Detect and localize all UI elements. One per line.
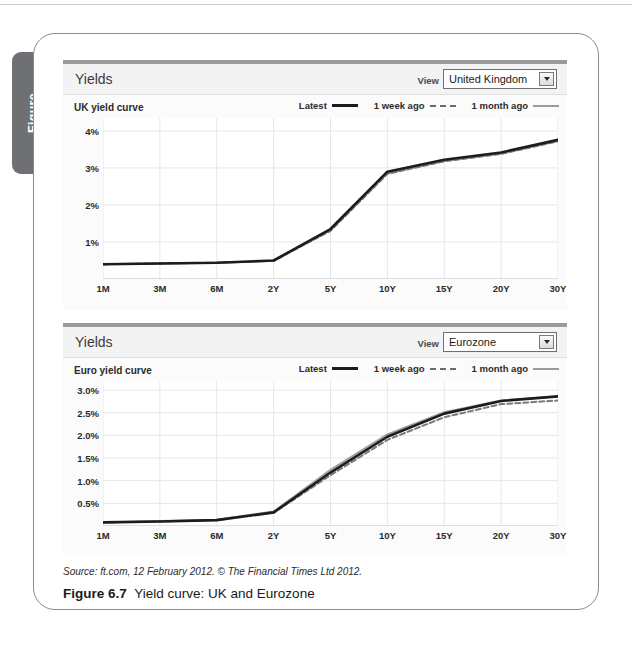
x-axis-tick-label: 3M: [153, 283, 166, 294]
x-axis-tick-label: 10Y: [379, 530, 396, 541]
x-axis-tick-label: 6M: [210, 283, 223, 294]
source-note: Source: ft.com, 12 February 2012. © The …: [63, 566, 362, 577]
x-axis-tick-label: 20Y: [493, 530, 510, 541]
x-axis-tick-label: 10Y: [379, 283, 396, 294]
y-axis-tick-label: 1.0%: [77, 475, 99, 486]
region-select-eurozone-value: Eurozone: [449, 336, 496, 348]
chart-plot-eurozone: [103, 381, 558, 526]
y-axis-tick-label: 1.5%: [77, 453, 99, 464]
x-axis-tick-label: 15Y: [436, 283, 453, 294]
x-axis-tick-label: 3M: [153, 530, 166, 541]
panel-uk-header: Yields View United Kingdom: [63, 64, 567, 95]
y-axis-labels-uk: 1%2%3%4%: [63, 118, 99, 279]
y-axis-tick-label: 2%: [85, 199, 99, 210]
x-axis-tick-label: 5Y: [325, 530, 337, 541]
y-axis-tick-label: 2.5%: [77, 407, 99, 418]
panel-eurozone-view-label: View: [418, 338, 439, 349]
chevron-down-icon[interactable]: [539, 335, 554, 349]
x-axis-tick-label: 2Y: [268, 283, 280, 294]
x-axis-labels-eurozone: 1M3M6M2Y5Y10Y15Y20Y30Y: [103, 530, 558, 544]
y-axis-tick-label: 1%: [85, 236, 99, 247]
x-axis-tick-label: 2Y: [268, 530, 280, 541]
legend-item-latest: Latest: [299, 363, 358, 374]
y-axis-tick-label: 4%: [85, 125, 99, 136]
page-top-rule: [0, 4, 632, 5]
legend-swatch-latest-icon: [332, 104, 358, 107]
x-axis-labels-uk: 1M3M6M2Y5Y10Y15Y20Y30Y: [103, 283, 558, 297]
panel-eurozone-subtitle: Euro yield curve: [74, 365, 152, 376]
x-axis-tick-label: 6M: [210, 530, 223, 541]
legend-label-week: 1 week ago: [374, 100, 425, 111]
legend-swatch-month-icon: [533, 105, 559, 107]
legend-item-week: 1 week ago: [374, 100, 456, 111]
legend-swatch-month-icon: [533, 368, 559, 370]
panel-eurozone-title: Yields: [75, 334, 113, 350]
region-select-uk[interactable]: United Kingdom: [443, 69, 557, 89]
y-axis-tick-label: 3%: [85, 162, 99, 173]
x-axis-tick-label: 1M: [96, 283, 109, 294]
region-select-eurozone[interactable]: Eurozone: [443, 332, 557, 352]
figure-card: Yields View United Kingdom UK yield curv…: [33, 33, 599, 610]
legend-item-month: 1 month ago: [472, 100, 559, 111]
figure-caption-text: Yield curve: UK and Eurozone: [134, 586, 314, 601]
legend-swatch-week-icon: [430, 105, 456, 107]
panel-uk-title: Yields: [75, 71, 113, 87]
x-axis-tick-label: 20Y: [493, 283, 510, 294]
panel-eurozone-header: Yields View Eurozone: [63, 327, 567, 358]
x-axis-tick-label: 5Y: [325, 283, 337, 294]
y-axis-tick-label: 2.0%: [77, 430, 99, 441]
legend-eurozone: Latest 1 week ago 1 month ago: [299, 363, 559, 374]
legend-uk: Latest 1 week ago 1 month ago: [299, 100, 559, 111]
panel-uk-subtitle: UK yield curve: [74, 102, 143, 113]
y-axis-tick-label: 0.5%: [77, 498, 99, 509]
legend-label-month: 1 month ago: [472, 100, 528, 111]
y-axis-labels-eurozone: 0.5%1.0%1.5%2.0%2.5%3.0%: [63, 381, 99, 526]
x-axis-tick-label: 30Y: [550, 530, 567, 541]
legend-swatch-week-icon: [430, 368, 456, 370]
legend-label-latest: Latest: [299, 100, 327, 111]
legend-item-latest: Latest: [299, 100, 358, 111]
panel-uk-view-label: View: [418, 75, 439, 86]
x-axis-tick-label: 1M: [96, 530, 109, 541]
chevron-down-icon[interactable]: [539, 72, 554, 86]
panel-uk: Yields View United Kingdom UK yield curv…: [63, 60, 567, 310]
x-axis-tick-label: 15Y: [436, 530, 453, 541]
legend-item-month: 1 month ago: [472, 363, 559, 374]
legend-label-week: 1 week ago: [374, 363, 425, 374]
legend-swatch-latest-icon: [332, 367, 358, 370]
panel-eurozone: Yields View Eurozone Euro yield curve La…: [63, 323, 567, 555]
legend-label-month: 1 month ago: [472, 363, 528, 374]
y-axis-tick-label: 3.0%: [77, 385, 99, 396]
figure-caption-number: Figure 6.7: [63, 586, 127, 601]
legend-item-week: 1 week ago: [374, 363, 456, 374]
region-select-uk-value: United Kingdom: [449, 73, 527, 85]
chart-plot-uk: [103, 118, 558, 279]
figure-caption: Figure 6.7 Yield curve: UK and Eurozone: [63, 586, 315, 601]
legend-label-latest: Latest: [299, 363, 327, 374]
x-axis-tick-label: 30Y: [550, 283, 567, 294]
